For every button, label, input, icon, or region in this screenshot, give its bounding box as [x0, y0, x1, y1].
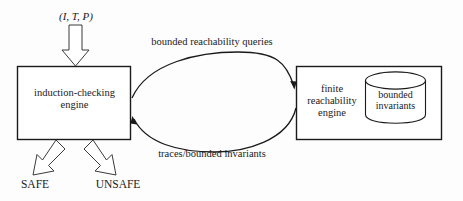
bottom-flow-label: traces/bounded invariants	[124, 148, 300, 160]
induction-checking-engine-label: induction-checking engine	[18, 87, 131, 111]
safe-block-arrow	[33, 140, 65, 175]
input-block-arrow	[62, 25, 89, 66]
unsafe-output-label: UNSAFE	[82, 178, 154, 191]
bounded-reachability-queries-arrow	[132, 52, 297, 98]
safe-output-label: SAFE	[6, 178, 64, 191]
finite-reachability-engine-label: finite reachability engine	[300, 83, 364, 118]
traces-bounded-invariants-arrow	[130, 108, 296, 152]
diagram-canvas: (I, T, P) bounded reachability queries t…	[0, 0, 463, 201]
input-tuple-label: (I, T, P)	[45, 10, 107, 22]
unsafe-block-arrow	[84, 140, 116, 175]
top-flow-label: bounded reachability queries	[124, 36, 300, 48]
bounded-invariants-label: bounded invariants	[364, 89, 427, 111]
